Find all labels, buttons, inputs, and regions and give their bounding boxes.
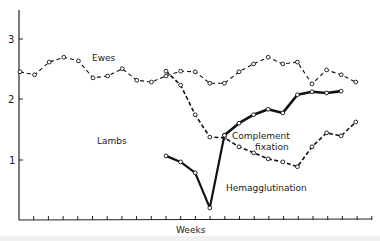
data-point: [77, 59, 81, 63]
data-point: [91, 76, 95, 80]
data-point: [223, 133, 227, 137]
data-point: [47, 60, 51, 64]
y-axis: 3 2 1: [8, 10, 23, 220]
data-point: [179, 160, 183, 164]
data-point: [354, 120, 358, 124]
data-point: [281, 62, 285, 66]
data-point: [62, 55, 66, 59]
label-lambs: Lambs: [97, 136, 127, 146]
series-lambs: [164, 69, 358, 168]
data-point: [179, 69, 183, 73]
data-point: [252, 62, 256, 66]
data-point: [339, 134, 343, 138]
label-hemagglutination: Hemagglutination: [226, 183, 307, 193]
label-complement: Complement: [232, 131, 290, 141]
series-hemagglutination: [164, 133, 226, 209]
data-point: [164, 74, 168, 78]
data-point: [33, 73, 37, 77]
data-point: [237, 70, 241, 74]
data-point: [193, 113, 197, 117]
data-point: [193, 70, 197, 74]
bottom-band: [0, 236, 380, 241]
data-point: [325, 91, 329, 95]
data-point: [252, 113, 256, 117]
data-point: [164, 154, 168, 158]
data-point: [164, 69, 168, 73]
data-point: [266, 157, 270, 161]
data-point: [325, 131, 329, 135]
data-point: [106, 74, 110, 78]
data-point: [310, 145, 314, 149]
data-point: [237, 145, 241, 149]
data-point: [208, 81, 212, 85]
data-point: [208, 206, 212, 210]
data-point: [208, 135, 212, 139]
data-point: [266, 107, 270, 111]
x-axis-label: Weeks: [176, 225, 206, 235]
data-point: [179, 83, 183, 87]
data-point: [223, 81, 227, 85]
data-point: [135, 78, 139, 82]
data-point: [193, 171, 197, 175]
data-point: [296, 165, 300, 169]
data-point: [150, 80, 154, 84]
data-point: [281, 160, 285, 164]
y-tick-1: 1: [9, 155, 15, 166]
y-tick-3: 3: [8, 34, 14, 45]
data-point: [310, 82, 314, 86]
x-axis: [19, 216, 372, 220]
series-complement-fixation: [223, 89, 344, 137]
label-ewes: Ewes: [92, 53, 116, 63]
data-point: [237, 121, 241, 125]
data-point: [325, 68, 329, 72]
data-point: [281, 111, 285, 115]
data-point: [339, 73, 343, 77]
data-point: [339, 89, 343, 93]
data-point: [18, 70, 22, 74]
data-point: [120, 67, 124, 71]
data-point: [266, 55, 270, 59]
line-chart: 3 2 1 Weeks Ewes Lambs Complement fixati…: [0, 0, 380, 241]
y-tick-2: 2: [8, 94, 14, 105]
data-point: [354, 80, 358, 84]
data-point: [296, 60, 300, 64]
label-fixation: fixation: [255, 142, 289, 152]
data-point: [296, 93, 300, 97]
series-ewes: [18, 55, 358, 85]
data-point: [310, 90, 314, 94]
